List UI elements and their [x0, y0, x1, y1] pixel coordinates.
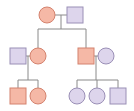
female-circle-I-1-affected — [39, 7, 55, 23]
female-circle-III-4-unaffected — [89, 88, 105, 104]
male-square-III-1-affected — [10, 88, 26, 104]
pedigree-chart — [0, 0, 134, 111]
male-square-I-2-unaffected — [67, 7, 83, 23]
male-square-II-1-unaffected — [10, 48, 26, 64]
female-circle-II-2-affected — [30, 48, 46, 64]
male-square-III-5-unaffected — [110, 88, 126, 104]
male-square-II-3-affected — [78, 48, 94, 64]
female-circle-II-4-unaffected — [98, 48, 114, 64]
female-circle-III-3-unaffected — [69, 88, 85, 104]
female-circle-III-2-affected — [30, 88, 46, 104]
